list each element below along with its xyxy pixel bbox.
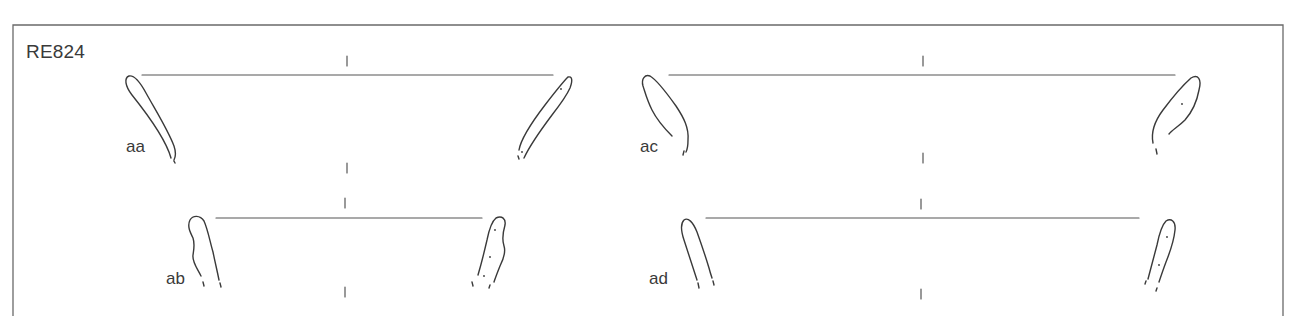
vessel-ad xyxy=(681,199,1175,299)
vessel-ac-right-profile xyxy=(1152,77,1200,143)
vessel-label-aa: aa xyxy=(126,138,145,155)
pottery-plate: RE824 aa ab ac ad xyxy=(0,0,1295,332)
vessel-ad-left-profile xyxy=(681,219,712,280)
vessel-ab xyxy=(189,198,505,297)
plate-frame xyxy=(13,25,1283,316)
vessel-ab-left-profile xyxy=(189,216,219,280)
vessel-label-ad: ad xyxy=(649,270,668,287)
vessel-ad-right-profile xyxy=(1148,220,1175,282)
plate-drawing xyxy=(0,0,1295,332)
vessel-aa xyxy=(126,56,572,173)
vessel-aa-right-profile xyxy=(519,77,572,158)
vessel-label-ac: ac xyxy=(640,138,658,155)
vessel-label-ab: ab xyxy=(166,270,185,287)
vessel-ab-right-profile xyxy=(478,217,505,282)
vessel-ac xyxy=(642,56,1200,163)
plate-title: RE824 xyxy=(26,42,85,61)
